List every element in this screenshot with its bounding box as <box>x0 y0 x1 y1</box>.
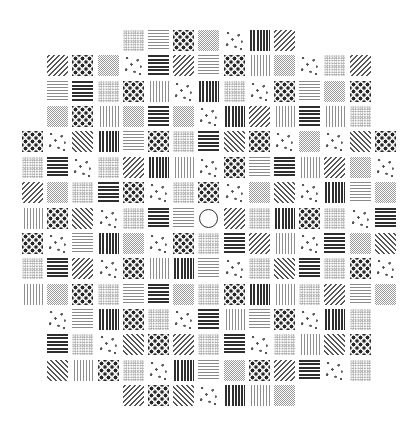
texture-cell-diagL <box>72 208 93 229</box>
texture-cell-grid <box>47 182 68 203</box>
texture-cell-hlines <box>249 309 270 330</box>
texture-cell-diagR <box>72 258 93 279</box>
texture-cell-dots <box>123 208 144 229</box>
texture-cell-dots <box>123 360 144 381</box>
texture-cell-spots <box>299 55 320 76</box>
texture-cell-vlines <box>299 334 320 355</box>
texture-cell-dots <box>324 208 345 229</box>
texture-cell-vbold <box>173 360 194 381</box>
texture-cell-spots <box>224 258 245 279</box>
texture-cell-hbold <box>324 233 345 254</box>
texture-cell-grid <box>98 55 119 76</box>
texture-cell-spots <box>47 309 68 330</box>
texture-cell-diagR <box>22 182 43 203</box>
texture-cell-diagR <box>173 55 194 76</box>
texture-cell-spots <box>148 233 169 254</box>
texture-cell-vlines <box>173 157 194 178</box>
texture-cell-grid <box>123 233 144 254</box>
texture-cell-grid <box>47 106 68 127</box>
texture-cell-hbold <box>98 182 119 203</box>
texture-cell-checker <box>375 131 396 152</box>
texture-cell-spots <box>173 81 194 102</box>
texture-cell-vlines <box>224 309 245 330</box>
texture-cell-hlines <box>72 233 93 254</box>
texture-cell-vlines <box>274 284 295 305</box>
texture-cell-dots <box>22 157 43 178</box>
texture-cell-spots <box>224 182 245 203</box>
texture-cell-checker <box>22 233 43 254</box>
texture-cell-diagR <box>249 233 270 254</box>
texture-cell-diagL <box>72 131 93 152</box>
texture-cell-vlines <box>249 55 270 76</box>
texture-cell-dots <box>148 309 169 330</box>
texture-cell-hlines <box>148 30 169 51</box>
texture-cell-hbold <box>148 106 169 127</box>
texture-cell-hlines <box>299 81 320 102</box>
texture-cell-dots <box>198 334 219 355</box>
texture-cell-hbold <box>224 334 245 355</box>
texture-cell-hlines <box>198 55 219 76</box>
texture-cell-dots <box>98 81 119 102</box>
texture-cell-spots <box>47 131 68 152</box>
texture-cell-hlines <box>47 81 68 102</box>
texture-cell-vbold <box>249 30 270 51</box>
texture-cell-hbold <box>375 208 396 229</box>
texture-cell-vlines <box>22 208 43 229</box>
texture-cell-grid <box>324 81 345 102</box>
texture-cell-spots <box>98 208 119 229</box>
texture-cell-dots <box>249 208 270 229</box>
texture-cell-diagL <box>123 334 144 355</box>
texture-cell-grid <box>123 106 144 127</box>
texture-cell-spots <box>148 182 169 203</box>
texture-cell-checker <box>98 360 119 381</box>
texture-cell-checker <box>123 258 144 279</box>
texture-cell-diagL <box>47 360 68 381</box>
texture-cell-spots <box>123 55 144 76</box>
texture-cell-spots <box>299 182 320 203</box>
texture-cell-hlines <box>198 360 219 381</box>
texture-cell-hbold <box>274 157 295 178</box>
texture-cell-vlines <box>22 284 43 305</box>
texture-cell-checker <box>123 81 144 102</box>
texture-cell-spots <box>324 360 345 381</box>
texture-cell-vbold <box>324 309 345 330</box>
texture-cell-diagR <box>274 30 295 51</box>
texture-cell-dots <box>98 284 119 305</box>
texture-cell-checker <box>198 182 219 203</box>
texture-cell-dots <box>249 258 270 279</box>
texture-cell-spots <box>148 360 169 381</box>
texture-cell-diagR <box>249 106 270 127</box>
texture-cell-spots <box>72 157 93 178</box>
texture-cell-diagL <box>173 385 194 406</box>
texture-cell-checker <box>72 284 93 305</box>
texture-cell-hlines <box>350 182 371 203</box>
texture-cell-diagR <box>350 55 371 76</box>
texture-cell-hbold <box>198 131 219 152</box>
texture-cell-checker <box>173 30 194 51</box>
texture-cell-spots <box>224 30 245 51</box>
texture-cell-hlines <box>249 157 270 178</box>
texture-cell-diagR <box>324 284 345 305</box>
texture-cell-hbold <box>47 334 68 355</box>
texture-search-grid <box>0 0 414 433</box>
texture-cell-diagR <box>224 208 245 229</box>
texture-cell-grid <box>375 284 396 305</box>
texture-cell-vlines <box>98 106 119 127</box>
texture-cell-checker <box>22 131 43 152</box>
texture-cell-spots <box>299 233 320 254</box>
texture-cell-vlines <box>274 233 295 254</box>
texture-cell-dots <box>224 81 245 102</box>
texture-cell-checker <box>173 233 194 254</box>
texture-cell-spots <box>324 131 345 152</box>
texture-cell-spots <box>299 309 320 330</box>
texture-cell-vbold <box>224 106 245 127</box>
texture-cell-hbold <box>47 258 68 279</box>
texture-cell-grid <box>375 182 396 203</box>
texture-cell-hbold <box>47 157 68 178</box>
texture-cell-grid <box>249 182 270 203</box>
texture-cell-checker <box>350 334 371 355</box>
texture-cell-vbold <box>324 182 345 203</box>
texture-cell-spots <box>375 258 396 279</box>
texture-cell-hlines <box>198 258 219 279</box>
texture-cell-diagL <box>350 131 371 152</box>
